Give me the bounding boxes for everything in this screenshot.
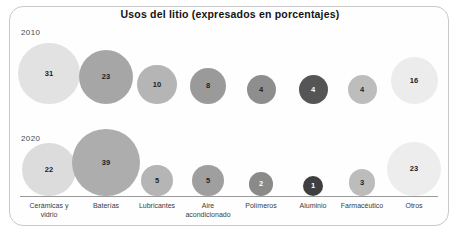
category-label-4: Polímeros: [234, 201, 288, 210]
baseline-2020: [20, 196, 438, 197]
bubble-value-label: 10: [153, 81, 161, 89]
bubble-value-label: 22: [45, 166, 53, 174]
bubble-value-label: 2: [259, 180, 263, 188]
bubble-2010-1: 23: [79, 50, 133, 104]
bubble-value-label: 16: [410, 77, 418, 85]
bubble-value-label: 23: [102, 73, 110, 81]
bubble-2020-0: 22: [22, 143, 75, 196]
bubble-2020-5: 1: [303, 176, 323, 196]
bubble-2020-2: 5: [141, 165, 172, 196]
bubble-2010-5: 4: [299, 75, 328, 104]
category-label-0: Cerámicas y vidrio: [21, 201, 77, 219]
bubble-2010-2: 10: [137, 65, 176, 104]
bubble-row-2010: 312310844416: [0, 30, 460, 106]
bubble-2020-1: 39: [72, 129, 139, 196]
category-label-1: Baterías: [80, 201, 132, 210]
bubble-value-label: 8: [206, 82, 210, 90]
bubble-2020-6: 3: [349, 169, 376, 196]
bubble-2020-3: 5: [192, 165, 223, 196]
bubble-value-label: 31: [45, 70, 53, 78]
bubble-2010-7: 16: [391, 57, 438, 104]
bubble-value-label: 3: [360, 179, 364, 187]
bubble-2020-7: 23: [387, 142, 441, 196]
bubble-2010-0: 31: [18, 43, 79, 104]
bubble-value-label: 39: [102, 159, 110, 167]
bubble-2020-4: 2: [249, 172, 273, 196]
bubble-value-label: 4: [259, 86, 263, 94]
category-label-6: Farmacéutico: [332, 201, 392, 210]
bubble-value-label: 5: [206, 177, 210, 185]
bubble-value-label: 4: [311, 86, 315, 94]
bubble-row-2020: 22395521323: [0, 128, 460, 196]
page-title: Usos del litio (expresados en porcentaje…: [0, 8, 460, 20]
category-label-3: Aire acondicionado: [179, 201, 237, 219]
category-label-7: Otros: [391, 201, 437, 210]
bubble-value-label: 4: [360, 86, 364, 94]
bubble-2010-6: 4: [348, 75, 377, 104]
bubble-2010-3: 8: [190, 68, 226, 104]
bubble-2010-4: 4: [247, 75, 276, 104]
bubble-value-label: 23: [410, 165, 418, 173]
bubble-value-label: 5: [155, 177, 159, 185]
bubble-value-label: 1: [311, 182, 315, 190]
category-axis-labels: Cerámicas y vidrioBateríasLubricantesAir…: [0, 199, 460, 229]
category-label-2: Lubricantes: [129, 201, 185, 210]
